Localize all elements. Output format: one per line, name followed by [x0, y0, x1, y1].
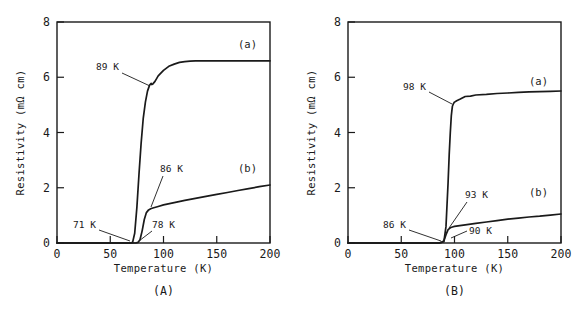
series-label-b: (b): [529, 186, 548, 198]
panel-b: 0 50 100 150 200 0 2 4 6 8 Temperature (…: [291, 0, 582, 309]
y-tickmarks-b: [348, 22, 355, 243]
plot-frame-a: [57, 22, 270, 243]
y-tick-label: 2: [334, 181, 341, 195]
y-tick-label: 8: [43, 15, 50, 29]
x-tick-label: 150: [206, 247, 227, 261]
y-tick-label: 0: [334, 236, 341, 250]
x-tick-label: 100: [153, 247, 174, 261]
x-tick-label: 150: [497, 247, 518, 261]
annotation-leader: [451, 231, 467, 238]
x-axis-title: Temperature (K): [405, 262, 504, 274]
y-axis-title: Resistivity (mΩ cm): [305, 70, 317, 196]
x-tick-label: 50: [103, 247, 117, 261]
annotation-label: 86 K: [160, 163, 183, 174]
annotation-label: 71 K: [73, 219, 96, 230]
series-label-a: (a): [529, 75, 548, 87]
annotation-leader: [151, 176, 163, 207]
annotation-leader: [122, 73, 150, 86]
y-tick-label: 6: [334, 70, 341, 84]
y-tick-label: 0: [43, 236, 50, 250]
y-tick-label: 2: [43, 181, 50, 195]
series-label-a: (a): [238, 38, 257, 50]
panel-a: 0 50 100 150 200 0 2 4 6 8 Temperature (…: [0, 0, 291, 309]
annotation-label: 78 K: [152, 219, 175, 230]
x-axis-title: Temperature (K): [114, 262, 213, 274]
y-tick-label: 6: [43, 70, 50, 84]
annotation-label: 90 K: [469, 225, 492, 236]
curve-a-series-a: [57, 61, 270, 243]
annotation-label: 98 K: [403, 81, 426, 92]
annotation-leader: [429, 92, 452, 104]
y-tick-label: 4: [43, 126, 50, 140]
y-tick-label: 8: [334, 15, 341, 29]
x-tick-label: 200: [551, 247, 572, 261]
annotation-leader: [409, 230, 441, 241]
panel-caption-b: (B): [444, 284, 465, 298]
y-tick-label: 4: [334, 126, 341, 140]
y-axis-title: Resistivity (mΩ cm): [14, 70, 26, 196]
panel-caption-a: (A): [153, 284, 174, 298]
x-tickmarks-a: [57, 236, 270, 243]
x-tick-label: 0: [54, 247, 61, 261]
x-tick-label: 100: [444, 247, 465, 261]
x-tick-label: 200: [260, 247, 281, 261]
plot-frame-b: [348, 22, 561, 243]
x-tick-label: 0: [345, 247, 352, 261]
series-label-b: (b): [238, 162, 257, 174]
annotation-leader: [99, 230, 130, 241]
annotation-label: 89 K: [96, 61, 119, 72]
annotation-label: 86 K: [383, 219, 406, 230]
figure-container: 0 50 100 150 200 0 2 4 6 8 Temperature (…: [0, 0, 582, 309]
curve-a-series-b: [57, 185, 270, 243]
x-tickmarks-b: [348, 236, 561, 243]
y-tickmarks-a: [57, 22, 64, 243]
annotation-label: 93 K: [465, 189, 488, 200]
x-tick-label: 50: [394, 247, 408, 261]
